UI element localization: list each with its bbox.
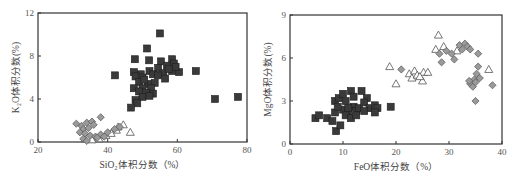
square-marker: [141, 76, 148, 83]
square-marker: [211, 96, 218, 103]
x-tick-label: 60: [173, 145, 183, 155]
x-tick-label: 30: [445, 147, 455, 157]
square-marker: [156, 30, 163, 37]
square-marker: [342, 98, 349, 105]
square-marker: [134, 100, 141, 107]
y-tick-label: 12: [25, 8, 34, 18]
y-tick-label: 0: [30, 137, 35, 147]
square-marker: [371, 109, 378, 116]
square-marker: [334, 103, 341, 110]
square-marker: [337, 122, 344, 129]
square-marker: [234, 93, 241, 100]
diamond-marker: [97, 114, 104, 121]
diamond-marker: [489, 82, 496, 89]
square-marker: [387, 103, 394, 110]
x-tick-label: 40: [103, 145, 113, 155]
square-marker: [139, 93, 146, 100]
triangle-marker: [386, 63, 394, 70]
square-marker: [345, 105, 352, 112]
triangle-marker: [485, 65, 493, 72]
y-tick-label: 4: [30, 94, 35, 104]
square-marker: [144, 45, 151, 52]
square-marker: [165, 65, 172, 72]
x-tick-label: 20: [34, 145, 44, 155]
y-tick-label: 6: [282, 53, 287, 63]
square-marker: [146, 92, 153, 99]
square-marker: [329, 118, 336, 125]
series-square: [111, 30, 241, 111]
square-marker: [316, 112, 323, 119]
y-axis-title: K₂O体积分数(%): [10, 42, 22, 113]
triangle-marker: [126, 128, 134, 135]
square-marker: [358, 87, 365, 94]
square-marker: [350, 93, 357, 100]
square-marker: [155, 72, 162, 79]
chart-k2o-vs-sio2: 2040608004812SiO₂体积分数（%）K₂O体积分数(%): [0, 0, 255, 173]
x-tick-label: 10: [339, 147, 349, 157]
series-diamond: [73, 114, 124, 145]
x-axis-title: SiO₂体积分数（%）: [99, 159, 185, 170]
square-marker: [146, 57, 153, 64]
y-tick-label: 3: [282, 96, 287, 106]
diamond-marker: [472, 97, 479, 104]
diamond-marker: [475, 50, 482, 57]
x-tick-label: 0: [288, 147, 293, 157]
y-tick-label: 8: [30, 51, 35, 61]
y-axis-title: MgO体积分数(%): [262, 42, 274, 116]
x-tick-label: 80: [243, 145, 253, 155]
square-marker: [128, 104, 135, 111]
triangle-marker: [434, 31, 442, 38]
chart-mgo-vs-feo: 0102030400369FeO体积分数（%）MgO体积分数(%): [255, 0, 510, 173]
square-marker: [340, 90, 347, 97]
square-marker: [131, 56, 138, 63]
diamond-marker: [398, 66, 405, 73]
square-marker: [353, 112, 360, 119]
y-tick-label: 9: [282, 10, 287, 20]
x-tick-label: 20: [392, 147, 402, 157]
square-marker: [111, 72, 118, 79]
square-marker: [192, 68, 199, 75]
series-square: [312, 87, 394, 134]
diamond-marker: [438, 59, 445, 66]
triangle-marker: [392, 80, 400, 87]
square-marker: [162, 75, 169, 82]
y-tick-label: 0: [282, 139, 287, 149]
scatter-plot-right: 0102030400369FeO体积分数（%）MgO体积分数(%): [255, 0, 510, 173]
x-axis-title: FeO体积分数（%）: [354, 161, 438, 172]
diamond-marker: [475, 63, 482, 70]
square-marker: [172, 63, 179, 70]
square-marker: [361, 108, 368, 115]
scatter-plot-left: 2040608004812SiO₂体积分数（%）K₂O体积分数(%): [0, 0, 255, 173]
x-tick-label: 40: [498, 147, 508, 157]
